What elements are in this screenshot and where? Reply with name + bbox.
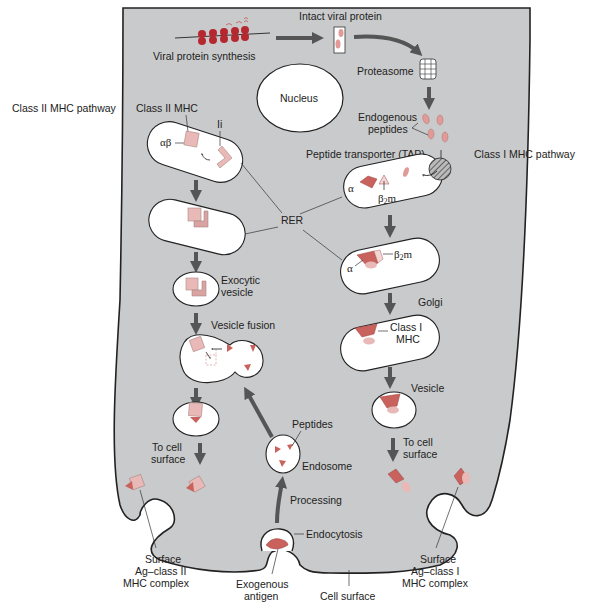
rer-label: RER	[281, 214, 304, 226]
golgi-label: Golgi	[418, 296, 443, 308]
to-cell-surface-i-1: To cell	[403, 436, 433, 448]
endosome-label: Endosome	[302, 460, 352, 472]
exogenous-label-2: antigen	[244, 590, 279, 602]
tap-transporter-icon	[429, 158, 451, 180]
intact-viral-protein-icon	[334, 27, 345, 53]
mhc-pathway-diagram: Viral protein synthesis Intact viral pro…	[0, 0, 592, 603]
surface-i-label-2: Ag–class I	[411, 565, 459, 577]
class-ii-pathway-label: Class II MHC pathway	[12, 102, 117, 114]
class-ii-mhc-icon	[188, 402, 202, 416]
surface-i-label-3: MHC complex	[402, 577, 469, 589]
surface-ii-label-3: MHC complex	[123, 577, 190, 589]
exogenous-label-1: Exogenous	[236, 578, 289, 590]
vesicle-label: Vesicle	[411, 382, 444, 394]
processing-label: Processing	[290, 494, 342, 506]
class-i-mhc-label-2: MHC	[396, 333, 420, 345]
cell-surface-label: Cell surface	[320, 590, 376, 602]
alpha-label-2: α	[347, 262, 353, 274]
class-ii-mhc-icon	[186, 278, 198, 290]
surface-ii-label-2: Ag–class II	[135, 565, 186, 577]
peptides-label: Peptides	[292, 418, 333, 430]
nucleus-label: Nucleus	[280, 92, 318, 104]
ii-label: Ii	[217, 118, 222, 130]
viral-protein-synthesis-label: Viral protein synthesis	[153, 50, 256, 62]
alpha-beta-label: αβ	[160, 136, 172, 148]
vesicle-fusion-label: Vesicle fusion	[211, 319, 275, 331]
beta2m-label-1: β2m	[378, 192, 397, 206]
proteasome-label: Proteasome	[357, 65, 414, 77]
to-cell-surface-i-2: surface	[403, 448, 438, 460]
to-cell-surface-ii-2: surface	[151, 453, 186, 465]
exocytic-label-2: vesicle	[221, 286, 253, 298]
class-ii-mhc-icon	[188, 208, 201, 221]
endogenous-label-2: peptides	[368, 123, 408, 135]
endogenous-label-1: Endogenous	[358, 111, 417, 123]
class-i-pathway-label: Class I MHC pathway	[474, 148, 576, 160]
class-ii-mhc-label: Class II MHC	[136, 102, 198, 114]
proteasome-icon	[420, 59, 436, 79]
surface-ii-label-1: Surface	[145, 553, 181, 565]
intact-viral-protein-label: Intact viral protein	[299, 10, 382, 22]
class-ii-mhc-icon	[184, 131, 199, 147]
alpha-label-1: α	[348, 182, 354, 194]
endocytosis-label: Endocytosis	[306, 528, 363, 540]
surface-i-label-1: Surface	[420, 553, 456, 565]
exocytic-label-1: Exocytic	[221, 274, 260, 286]
class-i-mhc-label-1: Class I	[390, 321, 422, 333]
beta2m-label-2: β2m	[394, 248, 413, 262]
to-cell-surface-ii-1: To cell	[152, 441, 182, 453]
